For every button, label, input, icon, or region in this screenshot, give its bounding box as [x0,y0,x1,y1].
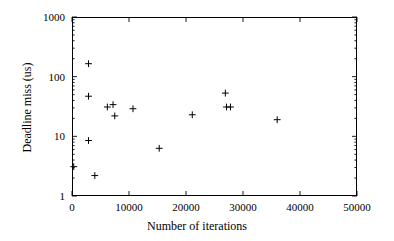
y-axis-title: Deadline miss (us) [20,18,35,198]
x-tick-label: 20000 [172,202,200,213]
x-tick-label: 0 [69,202,75,213]
x-tick-label: 10000 [115,202,143,213]
x-tick-label: 30000 [229,202,257,213]
plot-frame [72,17,357,196]
x-axis-title: Number of iterations [0,219,394,234]
x-tick-label: 40000 [286,202,314,213]
x-tick-label: 50000 [343,202,371,213]
scatter-plot-figure: 1101001000 01000020000300004000050000 Nu… [0,0,394,241]
